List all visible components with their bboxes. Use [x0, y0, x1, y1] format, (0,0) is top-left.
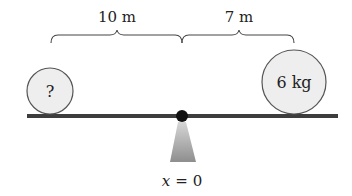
left-mass-label: ?: [46, 82, 55, 101]
right-brace: [182, 30, 294, 43]
left-mass: ?: [27, 68, 73, 114]
right-distance-label: 7 m: [225, 8, 254, 26]
pivot-label-var: x: [162, 172, 171, 190]
right-mass-label: 6 kg: [276, 73, 311, 92]
left-distance-label: 10 m: [98, 8, 136, 26]
fulcrum-support: [170, 122, 196, 162]
right-mass: 6 kg: [262, 50, 326, 114]
pivot-label: x=0: [162, 172, 203, 190]
pivot-label-eq: =: [175, 172, 188, 190]
pivot-label-val: 0: [193, 172, 203, 190]
left-brace: [51, 30, 182, 43]
pivot-point: [176, 110, 188, 122]
seesaw-diagram: 10 m 7 m ? 6 kg x=0: [0, 0, 352, 196]
